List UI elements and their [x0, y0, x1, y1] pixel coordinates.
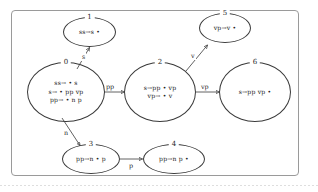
state-item-4-0: pp→n p •: [159, 155, 189, 163]
state-item-3-0: pp→n • p: [76, 155, 106, 163]
edge-label-2-to-6: vp: [200, 83, 210, 91]
state-node-1[interactable]: 1 ss→s •: [63, 17, 116, 47]
state-item-0-0: ss→ • s: [54, 79, 77, 87]
state-number-3: 3: [86, 140, 96, 149]
edge-label-0-to-2: pp: [105, 83, 115, 91]
state-number-6: 6: [250, 58, 260, 67]
state-node-2[interactable]: 2 s→pp • vp vp→ • v: [124, 62, 196, 122]
diagram-canvas: s pp n v vp p 1 ss→s • 5 vp→v • 0 ss→ • …: [0, 0, 318, 192]
state-item-0-1: s→ • pp vp: [49, 88, 84, 96]
state-number-2: 2: [155, 58, 165, 67]
state-item-2-0: s→pp • vp: [144, 84, 177, 92]
state-item-0-2: pp→ • n p: [50, 96, 82, 104]
state-item-6-0: s→pp vp •: [239, 88, 272, 96]
state-number-4: 4: [169, 140, 179, 149]
state-item-5-0: vp→v •: [214, 24, 237, 32]
state-node-0[interactable]: 0 ss→ • s s→ • pp vp pp→ • n p: [27, 62, 105, 122]
state-node-5[interactable]: 5 vp→v •: [199, 13, 251, 43]
state-node-3[interactable]: 3 pp→n • p: [62, 144, 120, 174]
edge-label-0-to-1: s: [81, 53, 86, 61]
state-node-4[interactable]: 4 pp→n p •: [143, 144, 205, 174]
edge-label-3-to-4: p: [128, 162, 134, 170]
state-item-2-1: vp→ • v: [148, 92, 173, 100]
edge-label-0-to-3: n: [63, 129, 69, 137]
state-number-1: 1: [84, 13, 94, 22]
state-item-1-0: ss→s •: [79, 28, 100, 36]
edge-label-2-to-5: v: [190, 52, 196, 60]
bottom-edge-artifact: [0, 185, 318, 186]
state-number-5: 5: [220, 9, 230, 18]
state-node-6[interactable]: 6 s→pp vp •: [219, 62, 291, 122]
state-number-0: 0: [61, 58, 71, 67]
